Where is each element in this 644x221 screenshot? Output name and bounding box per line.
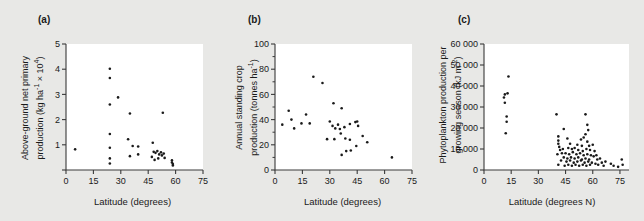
data-point (312, 75, 315, 78)
data-point (587, 160, 590, 163)
y-tick-label: 40 000 (450, 81, 478, 91)
data-point (586, 153, 589, 156)
data-point (343, 126, 346, 129)
panel-a-plot: 1234501530456075 (0, 0, 212, 221)
data-point (337, 123, 340, 126)
x-tick-label: 75 (407, 176, 417, 186)
data-point (137, 145, 140, 148)
panel-c-plot: 010 00020 00030 00040 00050 00060 000015… (424, 0, 644, 221)
data-point (586, 124, 589, 127)
data-point (604, 160, 607, 163)
data-point (576, 144, 579, 147)
data-point (562, 156, 565, 159)
data-point (504, 132, 507, 135)
y-tick-label: 2 (55, 115, 60, 125)
data-point (162, 111, 165, 114)
data-point (590, 154, 593, 157)
data-point (334, 127, 337, 130)
y-tick-label: 60 000 (450, 39, 478, 49)
y-tick-label: 100 (254, 39, 269, 49)
data-point (575, 153, 578, 156)
data-point (344, 137, 347, 140)
data-point (131, 145, 134, 148)
data-point (562, 148, 565, 151)
data-point (281, 123, 284, 126)
data-point (566, 137, 569, 140)
data-point (340, 107, 343, 110)
data-point (569, 142, 572, 145)
data-point (572, 151, 575, 154)
y-tick-label: 0 (473, 165, 478, 175)
data-point (567, 163, 570, 166)
panel-c: (c) Phytoplankton production per growing… (424, 0, 644, 221)
data-point (573, 157, 576, 160)
data-point (160, 151, 163, 154)
data-point (366, 141, 369, 144)
x-tick-label: 75 (198, 176, 208, 186)
data-point (503, 96, 506, 99)
data-point (587, 129, 590, 132)
data-point (589, 149, 592, 152)
data-point (569, 159, 572, 162)
data-point (340, 154, 343, 157)
data-point (300, 122, 303, 125)
data-point (357, 125, 360, 128)
data-point (109, 157, 112, 160)
data-point (581, 145, 584, 148)
data-point (505, 120, 508, 123)
data-point (561, 152, 564, 155)
y-tick-label: 5 (55, 39, 60, 49)
data-point (610, 162, 613, 165)
data-point (109, 133, 112, 136)
data-point (595, 154, 598, 157)
data-point (345, 150, 348, 153)
data-point (557, 135, 560, 138)
data-point (558, 146, 561, 149)
data-point (109, 162, 112, 165)
y-tick-label: 40 (259, 115, 269, 125)
y-tick-label: 80 (259, 64, 269, 74)
data-point (571, 148, 574, 151)
y-tick-label: 1 (55, 140, 60, 150)
data-point (349, 138, 352, 141)
data-point (332, 102, 335, 105)
panel-b: (b) Annual standing crop production (ton… (212, 0, 424, 221)
data-point (586, 140, 589, 143)
data-point (74, 148, 77, 151)
data-point (504, 102, 507, 105)
data-point (158, 153, 161, 156)
data-point (290, 118, 293, 121)
data-point (305, 113, 308, 116)
data-point (589, 163, 592, 166)
data-point (577, 156, 580, 159)
data-point (584, 157, 587, 160)
data-point (162, 152, 165, 155)
data-point (585, 165, 588, 168)
x-tick-label: 30 (116, 176, 126, 186)
data-point (151, 141, 154, 144)
y-tick-label: 4 (55, 64, 60, 74)
x-tick-label: 15 (506, 176, 516, 186)
data-point (293, 127, 296, 130)
data-point (581, 150, 584, 153)
panel-a: (a) Above-ground net primary production … (0, 0, 212, 221)
data-point (557, 139, 560, 142)
data-point (564, 152, 567, 155)
x-tick-label: 60 (171, 176, 181, 186)
data-point (361, 135, 364, 138)
data-point (584, 133, 587, 136)
panel-c-x-axis-label: Latitude (degrees N) (472, 196, 632, 207)
data-point (326, 138, 329, 141)
plot-area (275, 44, 412, 170)
data-point (599, 157, 602, 160)
x-tick-label: 60 (588, 176, 598, 186)
data-point (572, 161, 575, 164)
data-point (355, 145, 358, 148)
data-point (588, 145, 591, 148)
data-point (574, 163, 577, 166)
data-point (567, 147, 570, 150)
data-point (573, 147, 576, 150)
data-point (172, 164, 175, 167)
data-point (592, 155, 595, 158)
y-tick-label: 60 (259, 90, 269, 100)
